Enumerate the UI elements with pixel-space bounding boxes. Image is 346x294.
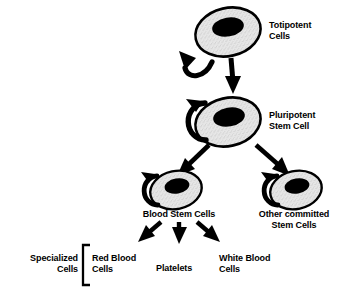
label-blood-stem-cells: Blood Stem Cells (122, 209, 236, 220)
label-white-blood-cells: White Blood Cells (219, 253, 285, 274)
cell-totipotent (190, 1, 265, 63)
arrow-blood-stem-to-platelets (172, 222, 187, 244)
label-totipotent-cells: Totipotent Cells (269, 20, 343, 41)
diagram-graphics-layer (0, 0, 346, 294)
arrow-totipotent-to-pluripotent (225, 58, 241, 94)
label-red-blood-cells: Red Blood Cells (92, 253, 152, 274)
arrow-blood-stem-to-white-blood (197, 222, 220, 242)
self-renewal-arrow-totipotent (179, 51, 212, 76)
label-platelets: Platelets (156, 263, 214, 274)
arrow-blood-stem-to-red-blood (138, 222, 161, 242)
cell-pluripotent (190, 91, 265, 153)
label-pluripotent-stem-cell: Pluripotent Stem Cell (269, 110, 343, 131)
label-other-committed-stem-cells: Other committed Stem Cells (242, 209, 346, 230)
stem-cell-differentiation-diagram: Totipotent Cells Pluripotent Stem Cell B… (0, 0, 346, 294)
specialized-cells-bracket (83, 245, 90, 285)
arrow-pluripotent-to-other-committed (256, 145, 290, 176)
label-specialized-cells: Specialized Cells (8, 253, 78, 274)
